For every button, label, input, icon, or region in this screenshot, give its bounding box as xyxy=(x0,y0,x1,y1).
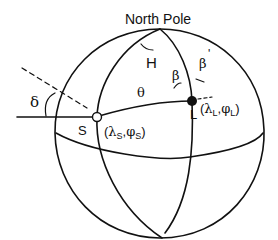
north-pole-label: North Pole xyxy=(125,11,191,27)
great-circle-arc xyxy=(99,101,192,116)
beta-label: β xyxy=(172,68,180,83)
hour-angle-arc xyxy=(141,44,153,50)
source-point-S xyxy=(93,113,102,122)
beta-angle-arc xyxy=(174,83,181,88)
meridian-location xyxy=(160,29,192,233)
dashed-tick-L xyxy=(198,97,212,99)
beta-prime-label: β xyxy=(199,56,207,71)
celestial-sphere-diagram: North Pole H θ β β ' δ S L (λS,φS) (λL,φ… xyxy=(0,0,278,240)
delta-label: δ xyxy=(30,93,39,111)
beta-prime-angle-arc xyxy=(196,79,204,82)
equator xyxy=(56,133,263,158)
beta-prime-mark: ' xyxy=(208,47,210,61)
location-label: L xyxy=(190,107,197,122)
location-point-L xyxy=(187,96,197,106)
hour-angle-label: H xyxy=(146,54,157,71)
source-label: S xyxy=(78,123,87,138)
theta-label: θ xyxy=(137,85,145,100)
location-coordinates: (λL,φL) xyxy=(200,101,240,118)
source-coordinates: (λS,φS) xyxy=(104,124,146,141)
delta-angle-arc xyxy=(45,93,55,116)
